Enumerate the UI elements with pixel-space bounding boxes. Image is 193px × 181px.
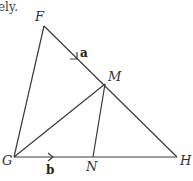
- point-M-label: M: [107, 69, 122, 84]
- triangle-diagram: ely. a b F M G N H: [0, 0, 193, 181]
- segment-FH: [44, 26, 177, 157]
- point-F-label: F: [34, 9, 45, 24]
- point-H-label: H: [179, 153, 192, 168]
- vector-a-label: a: [80, 46, 88, 60]
- segment-FG: [14, 26, 44, 157]
- cut-off-text: ely.: [0, 0, 18, 14]
- point-G-label: G: [2, 153, 12, 168]
- segment-MN: [93, 84, 105, 157]
- point-N-label: N: [85, 159, 98, 174]
- vector-b-label: b: [46, 163, 54, 177]
